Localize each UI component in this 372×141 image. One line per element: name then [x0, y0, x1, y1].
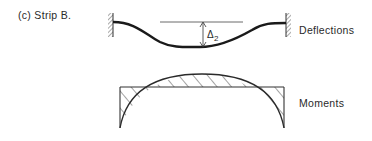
left-fixed-support-icon	[108, 13, 113, 37]
deflection-diagram	[108, 13, 291, 47]
negative-moment-left	[120, 87, 153, 128]
delta-dimension-arrow	[200, 22, 206, 47]
delta-label: Δ2	[207, 29, 219, 43]
moments-label: Moments	[299, 97, 344, 109]
negative-moment-right	[250, 87, 284, 128]
right-fixed-support-icon	[286, 13, 291, 37]
deflected-shape	[113, 22, 286, 47]
strip-b-diagram	[0, 0, 372, 141]
deflections-label: Deflections	[299, 24, 354, 36]
positive-moment-middle	[153, 74, 250, 88]
delta-subscript: 2	[214, 34, 219, 43]
delta-symbol: Δ	[207, 29, 214, 40]
moment-diagram	[120, 74, 284, 129]
